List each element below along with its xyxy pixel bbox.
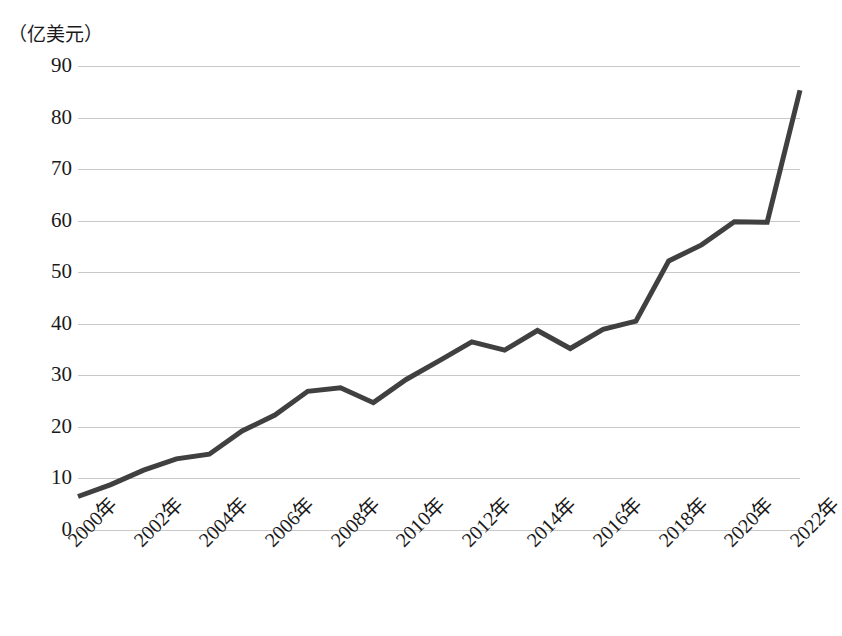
y-axis-tick-label: 90 [10,55,72,76]
y-axis-tick-label: 70 [10,158,72,179]
y-axis-tick-label: 50 [10,261,72,282]
data-series-line [78,66,800,530]
y-axis-tick-labels: 0102030405060708090 [0,66,72,530]
y-axis-tick-label: 20 [10,416,72,437]
y-axis-tick-label: 80 [10,107,72,128]
y-axis-tick-label: 40 [10,313,72,334]
x-axis-tick-labels: 2000年2002年2004年2006年2008年2010年2012年2014年… [78,530,800,636]
y-axis-tick-label: 60 [10,210,72,231]
y-axis-tick-label: 30 [10,364,72,385]
plot-area [78,66,800,530]
y-axis-tick-label: 0 [10,519,72,540]
y-axis-tick-label: 10 [10,467,72,488]
y-axis-unit-label: （亿美元） [8,24,103,46]
